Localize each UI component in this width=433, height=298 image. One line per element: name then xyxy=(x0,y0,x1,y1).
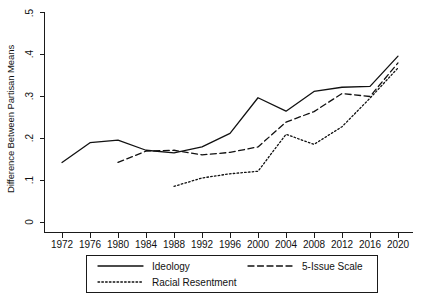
y-tick-label: 0 xyxy=(24,219,35,225)
x-tick-label: 2016 xyxy=(359,239,382,250)
legend-label-5-issue-scale: 5-Issue Scale xyxy=(302,261,363,272)
legend-label-racial-resentment: Racial Resentment xyxy=(152,277,237,288)
x-tick-label: 2012 xyxy=(331,239,354,250)
chart-background xyxy=(0,0,433,298)
x-tick-label: 2000 xyxy=(247,239,270,250)
line-chart: Difference Between Partisan Means 0 .1 .… xyxy=(0,0,433,298)
x-tick-label: 2004 xyxy=(275,239,298,250)
x-tick-label: 1976 xyxy=(79,239,102,250)
x-tick-label: 2020 xyxy=(387,239,410,250)
y-tick-label: .5 xyxy=(24,8,35,17)
x-tick-label: 1996 xyxy=(219,239,242,250)
x-tick-label: 1980 xyxy=(107,239,130,250)
y-tick-label: .2 xyxy=(24,133,35,142)
y-tick-label: .1 xyxy=(24,175,35,184)
legend-label-ideology: Ideology xyxy=(152,261,190,272)
x-tick-label: 2008 xyxy=(303,239,326,250)
x-tick-label: 1984 xyxy=(135,239,158,250)
y-tick-label: .4 xyxy=(24,49,35,58)
y-tick-label: .3 xyxy=(24,91,35,100)
x-tick-label: 1992 xyxy=(191,239,214,250)
x-tick-label: 1988 xyxy=(163,239,186,250)
y-axis-label: Difference Between Partisan Means xyxy=(5,45,16,193)
x-tick-label: 1972 xyxy=(51,239,74,250)
